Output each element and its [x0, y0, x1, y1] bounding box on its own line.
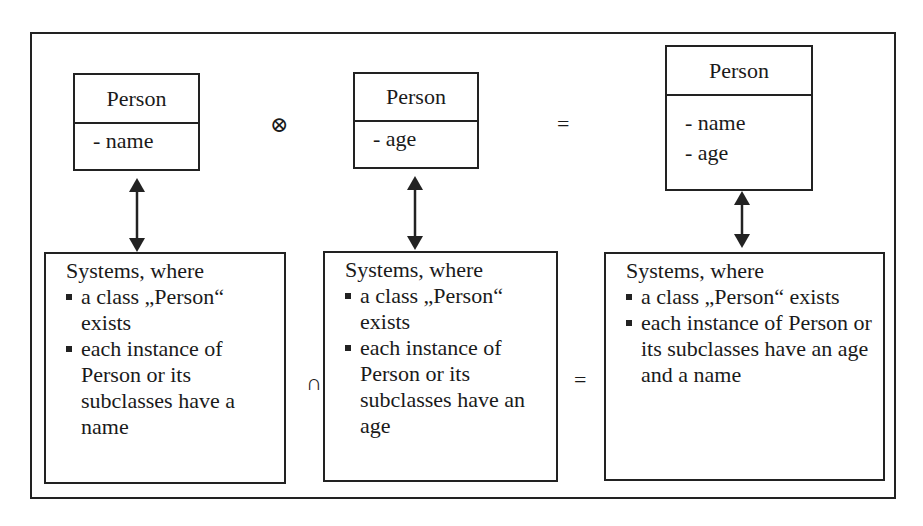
- double-arrow-icon: [127, 178, 147, 252]
- equals-operator: =: [557, 113, 569, 135]
- class-name: Person: [355, 74, 477, 122]
- list-item: each instance of Person or its subclasse…: [626, 310, 877, 388]
- bullet-square-icon: [345, 293, 351, 299]
- double-arrow-icon: [405, 176, 425, 250]
- attribute: - age: [373, 126, 477, 152]
- bullet-square-icon: [66, 294, 72, 300]
- class-attributes: - name: [75, 124, 198, 154]
- system-condition-list: a class „Person“ exists each instance of…: [345, 283, 550, 439]
- class-attributes: - name - age: [667, 96, 811, 168]
- attribute: - name: [685, 108, 811, 138]
- list-item: each instance of Person or its subclasse…: [66, 336, 278, 440]
- class-name: Person: [667, 47, 811, 96]
- system-set-box-name: Systems, where a class „Person“ exists e…: [44, 252, 286, 484]
- bullet-square-icon: [66, 346, 72, 352]
- double-arrow-icon: [732, 191, 752, 248]
- class-attributes: - age: [355, 122, 477, 152]
- system-set-title: Systems, where: [66, 258, 278, 284]
- merge-operator-icon: ⊗: [270, 114, 288, 136]
- list-item: each instance of Person or its subclasse…: [345, 335, 550, 439]
- list-item: a class „Person“ exists: [66, 284, 278, 336]
- intersection-operator-icon: ∩: [306, 372, 322, 394]
- list-item: a class „Person“ exists: [345, 283, 550, 335]
- class-box-person-name: Person - name: [73, 73, 200, 171]
- class-box-person-age: Person - age: [353, 72, 479, 169]
- bullet-square-icon: [626, 320, 632, 326]
- class-box-person-merged: Person - name - age: [665, 45, 813, 191]
- system-set-box-age: Systems, where a class „Person“ exists e…: [323, 251, 558, 482]
- list-item: a class „Person“ exists: [626, 284, 877, 310]
- class-name: Person: [75, 75, 198, 124]
- system-condition-list: a class „Person“ exists each instance of…: [626, 284, 877, 388]
- attribute: - name: [93, 128, 198, 154]
- equals-operator: =: [574, 369, 586, 391]
- system-set-title: Systems, where: [626, 258, 877, 284]
- system-set-box-merged: Systems, where a class „Person“ exists e…: [604, 252, 885, 481]
- attribute: - age: [685, 138, 811, 168]
- system-set-title: Systems, where: [345, 257, 550, 283]
- bullet-square-icon: [345, 345, 351, 351]
- system-condition-list: a class „Person“ exists each instance of…: [66, 284, 278, 440]
- bullet-square-icon: [626, 294, 632, 300]
